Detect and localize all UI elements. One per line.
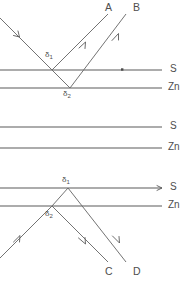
- plane-label-top-s: S: [170, 64, 177, 74]
- plane-label-middle-zn: Zn: [168, 142, 180, 152]
- reflected-ray-b: [70, 14, 126, 88]
- arrowhead-reflected-ray-a: [79, 42, 86, 49]
- arrowhead-reflected-ray-d: [113, 236, 120, 243]
- plane-label-top-zn: Zn: [168, 82, 180, 92]
- path-difference-label-bottom-delta1: δ1: [62, 176, 70, 184]
- path-difference-label-bottom-delta2: δ2: [45, 210, 53, 218]
- path-difference-label-top-delta2: δ2: [63, 90, 71, 98]
- path-difference-label-top-delta1: δ1: [45, 51, 53, 59]
- ray-label-c: C: [105, 266, 113, 277]
- figure-canvas: [0, 0, 189, 281]
- reflected-ray-c: [52, 206, 108, 262]
- plane-label-bottom-s: S: [170, 182, 177, 192]
- ray-label-a: A: [105, 2, 112, 13]
- delta-subscript: 2: [67, 93, 70, 99]
- top-group: [0, 14, 162, 88]
- plane-label-middle-s: S: [170, 121, 177, 131]
- transmitted-ray-bottom: [52, 188, 68, 206]
- incident-ray-top: [0, 18, 52, 70]
- transmitted-ray-top: [52, 70, 70, 88]
- plane-label-bottom-zn: Zn: [168, 200, 180, 210]
- ray-label-b: B: [133, 2, 140, 13]
- ray-label-d: D: [133, 266, 141, 277]
- tick-dot-top-s-plane: [121, 68, 123, 70]
- middle-group: [0, 127, 162, 148]
- bottom-group: [0, 186, 162, 262]
- bragg-diffraction-figure: A B δ1 δ2 S Zn S Zn δ1 δ2 S Zn C D: [0, 0, 189, 281]
- delta-subscript: 2: [49, 213, 52, 219]
- delta-subscript: 1: [49, 54, 52, 60]
- delta-subscript: 1: [66, 179, 69, 185]
- arrowhead-reflected-ray-b: [112, 34, 119, 41]
- reflected-ray-a: [52, 14, 108, 70]
